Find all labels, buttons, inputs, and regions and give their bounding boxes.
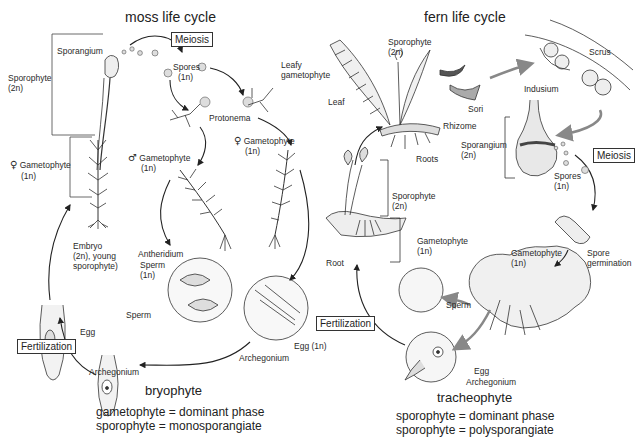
fern-group-label: tracheophyte [437, 390, 512, 405]
fern-spores-label: Spores [554, 171, 581, 181]
moss-male-gametophyte-label: ♂ Gametophyte [128, 153, 190, 163]
moss-group-label: bryophyte [145, 383, 202, 398]
moss-embryo-label-2: (2n), young [73, 251, 116, 261]
fern-spore-germination-label-2: germination [587, 258, 631, 268]
fern-meiosis-box: Meiosis [593, 148, 635, 163]
fern-sporangium-ploidy: (2n) [461, 150, 476, 160]
moss-sperm-ploidy: (1n) [140, 270, 155, 280]
fern-roots-label: Roots [416, 154, 438, 164]
fern-rhizome-label: Rhizome [443, 121, 477, 131]
moss-title: moss life cycle [125, 9, 216, 25]
fern-summary-1: sporophyte = dominant phase [396, 409, 554, 423]
fern-fertilization-box: Fertilization [316, 316, 375, 331]
fern-gametophyte-ploidy: (1n) [417, 246, 432, 256]
fern-scrus-label: Scrus [589, 47, 611, 57]
moss-archegonium-label: Archegonium [89, 367, 139, 377]
moss-female-gametophyte-label: ♀ Gametophyte [10, 160, 71, 170]
fern-indusium-label: Indusium [524, 84, 559, 94]
fern-leaf-label: Leaf [328, 97, 345, 107]
fern-title: fern life cycle [424, 9, 506, 25]
moss-sporophyte-drawing [88, 55, 119, 229]
male-symbol-icon: ♂ [128, 152, 137, 163]
fern-gametophyte-label: Gametophyte [417, 236, 468, 246]
moss-spores-ploidy: (1n) [178, 72, 193, 82]
moss-archegonium-2-label: Archegonium [239, 353, 289, 363]
moss-female-gametophyte-ploidy: (1n) [21, 171, 36, 181]
moss-sporophyte-ploidy: (2n) [8, 83, 23, 93]
moss-female-gametophyte-2-label: ♀ Gametophyte [234, 136, 295, 146]
moss-embryo-label-3: sporophyte) [73, 261, 118, 271]
fern-sporophyte-drawing [330, 40, 480, 149]
moss-summary-1: gametophyte = dominant phase [96, 405, 264, 419]
moss-sperm-2-label: Sperm [126, 310, 151, 320]
fern-sporangium-label: Sporangium [461, 140, 507, 150]
fern-sporophyte-label: Sporophyte [388, 37, 431, 47]
fern-spores-ploidy: (1n) [554, 181, 569, 191]
moss-egg-label: Egg [80, 327, 95, 337]
female-symbol-icon: ♀ [234, 135, 241, 146]
moss-meiosis-box: Meiosis [171, 32, 213, 47]
fern-gametophyte-2-label: Gametophyte [511, 248, 562, 258]
fern-young-sporophyte-ploidy: (2n) [392, 201, 407, 211]
moss-egg-1n-label: Egg (1n) [294, 341, 327, 351]
fern-sperm-label: Sperm [446, 300, 471, 310]
fern-spore-germination-label: Spore [587, 248, 610, 258]
fern-root-label: Root [326, 258, 344, 268]
moss-summary-2: sporophyte = monosporangiate [96, 419, 262, 433]
moss-antheridium-label: Antheridium [138, 249, 183, 259]
moss-female-gametophyte-2-ploidy: (1n) [245, 146, 260, 156]
fern-egg-label: Egg [474, 366, 489, 376]
female-symbol-icon: ♀ [10, 159, 17, 170]
fern-young-sporophyte-label: Sporophyte [392, 191, 435, 201]
moss-spores-label: Spores [173, 62, 200, 72]
moss-leafy-gametophyte-label: Leafy [281, 60, 302, 70]
fern-sori-label: Sori [468, 104, 483, 114]
moss-embryo-label: Embryo [73, 241, 102, 251]
fern-gametophyte-2-ploidy: (1n) [511, 258, 526, 268]
moss-sporophyte-label: Sporophyte [8, 73, 51, 83]
moss-protonema-label: Protonema [209, 113, 251, 123]
fern-summary-2: sporophyte = polysporangiate [396, 423, 554, 437]
moss-sporangium-label: Sporangium [57, 46, 103, 56]
fern-sporophyte-ploidy: (2n) [388, 47, 403, 57]
moss-fertilization-box: Fertilization [17, 339, 76, 354]
moss-sperm-label: Sperm [140, 260, 165, 270]
fern-archegonium-label: Archegonium [466, 377, 516, 387]
moss-male-gametophyte-ploidy: (1n) [141, 163, 156, 173]
moss-leafy-gametophyte-label-2: gametophyte [281, 70, 330, 80]
